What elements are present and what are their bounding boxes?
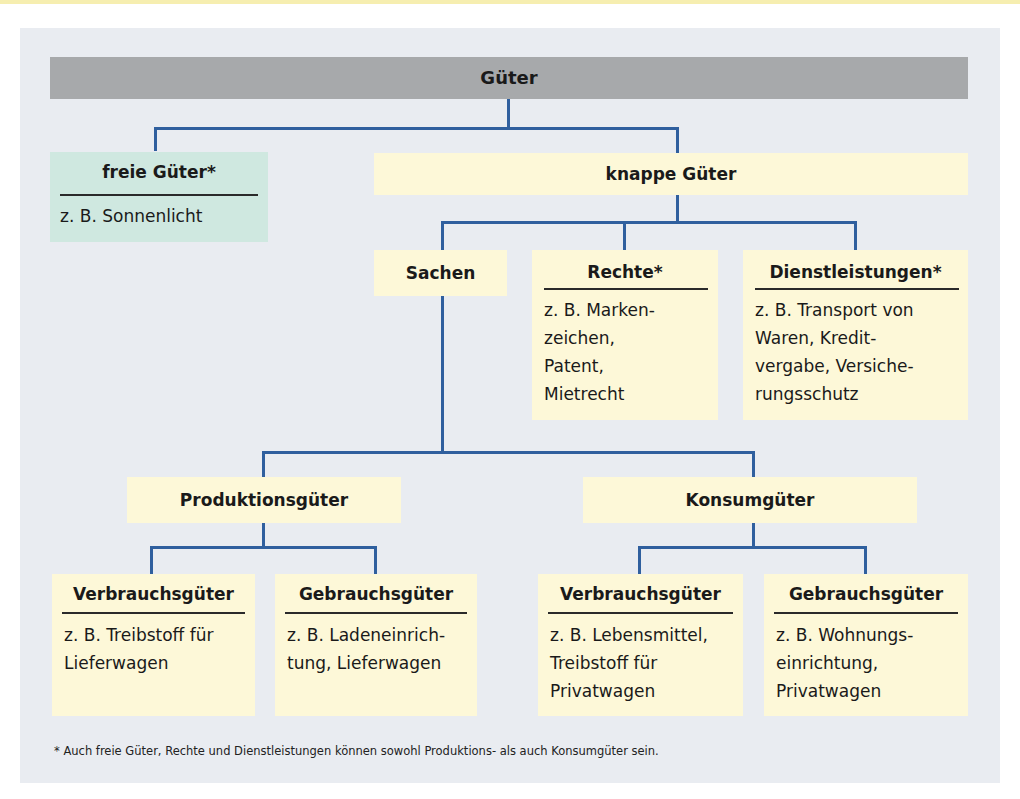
connector — [752, 451, 755, 477]
connector — [623, 221, 626, 250]
connector — [150, 546, 377, 549]
leaf-title: Verbrauchsgüter — [52, 584, 255, 604]
connector — [441, 221, 444, 250]
leaf-example: z. B. Treibstoff für Lieferwagen — [64, 621, 213, 677]
leaf-title: Gebrauchsgüter — [275, 584, 477, 604]
divider — [774, 612, 958, 614]
rights-example: z. B. Marken- zeichen, Patent, Mietrecht — [544, 296, 655, 408]
footnote: * Auch freie Güter, Rechte und Dienstlei… — [54, 744, 659, 758]
production-goods-title: Produktionsgüter — [180, 490, 348, 510]
connector — [752, 523, 755, 548]
divider — [62, 612, 245, 614]
connector — [441, 296, 444, 453]
connector — [262, 451, 755, 454]
connector — [262, 451, 265, 477]
connector — [374, 546, 377, 574]
connector — [854, 221, 857, 250]
production-consumables-node: Verbrauchsgüter z. B. Treibstoff für Lie… — [52, 574, 255, 716]
root-label: Güter — [480, 67, 537, 88]
connector — [638, 546, 641, 574]
connector — [676, 127, 679, 153]
leaf-example: z. B. Wohnungs- einrichtung, Privatwagen — [776, 621, 913, 705]
rights-title: Rechte* — [532, 262, 718, 282]
consumer-goods-title: Konsumgüter — [686, 490, 815, 510]
consumer-durables-node: Gebrauchsgüter z. B. Wohnungs- einrichtu… — [764, 574, 968, 716]
things-node: Sachen — [374, 250, 507, 296]
leaf-example: z. B. Lebensmittel, Treibstoff für Priva… — [550, 621, 708, 705]
divider — [285, 612, 467, 614]
leaf-example: z. B. Ladeneinrich- tung, Lieferwagen — [287, 621, 445, 677]
consumer-goods-node: Konsumgüter — [583, 477, 917, 523]
scarce-goods-node: knappe Güter — [374, 153, 968, 195]
free-goods-example: z. B. Sonnenlicht — [60, 202, 202, 230]
production-durables-node: Gebrauchsgüter z. B. Ladeneinrich- tung,… — [275, 574, 477, 716]
connector — [262, 523, 265, 548]
divider — [755, 288, 959, 290]
connector — [154, 127, 157, 151]
connector — [441, 221, 857, 224]
root-node: Güter — [50, 57, 968, 99]
connector — [150, 546, 153, 574]
free-goods-node: freie Güter* z. B. Sonnenlicht — [50, 152, 268, 242]
leaf-title: Verbrauchsgüter — [538, 584, 743, 604]
divider — [544, 288, 708, 290]
connector — [154, 127, 679, 130]
services-example: z. B. Transport von Waren, Kredit- verga… — [755, 296, 914, 408]
scarce-goods-title: knappe Güter — [606, 164, 737, 184]
things-title: Sachen — [406, 263, 476, 283]
connector — [676, 195, 679, 223]
leaf-title: Gebrauchsgüter — [764, 584, 968, 604]
top-strip — [0, 0, 1020, 4]
connector — [638, 546, 867, 549]
divider — [60, 194, 258, 196]
consumer-consumables-node: Verbrauchsgüter z. B. Lebensmittel, Trei… — [538, 574, 743, 716]
connector — [864, 546, 867, 574]
connector — [507, 99, 510, 129]
production-goods-node: Produktionsgüter — [127, 477, 401, 523]
rights-node: Rechte* z. B. Marken- zeichen, Patent, M… — [532, 250, 718, 420]
free-goods-title: freie Güter* — [50, 162, 268, 182]
services-node: Dienstleistungen* z. B. Transport von Wa… — [743, 250, 968, 420]
divider — [548, 612, 733, 614]
services-title: Dienstleistungen* — [743, 262, 968, 282]
